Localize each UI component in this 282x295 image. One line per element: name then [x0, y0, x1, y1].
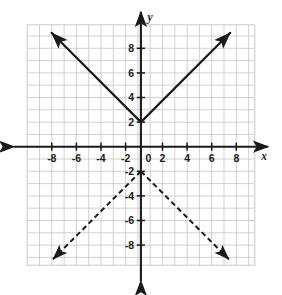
y-tick-label: 4	[128, 91, 134, 103]
coordinate-plane-figure: -8 -6 -4 -2 2 4 6 8 0 8 6 4 2 -2 -4 -6 -…	[0, 0, 282, 295]
x-tick-label: -8	[47, 152, 56, 164]
y-tick-label: 6	[128, 67, 134, 79]
x-tick-label: 2	[160, 152, 166, 164]
x-tick-label: -6	[72, 152, 81, 164]
x-tick-label: 6	[209, 152, 215, 164]
x-tick-label: -4	[96, 152, 105, 164]
y-tick-label: -6	[125, 214, 134, 226]
x-tick-label: 4	[184, 152, 190, 164]
x-axis-label: x	[260, 150, 267, 162]
y-axis-label: y	[145, 11, 153, 24]
x-tick-label: -2	[121, 152, 130, 164]
y-tick-label: -2	[125, 165, 134, 177]
y-tick-label: -8	[125, 239, 134, 251]
graph-canvas: -8 -6 -4 -2 2 4 6 8 0 8 6 4 2 -2 -4 -6 -…	[0, 0, 282, 295]
y-tick-label: -4	[125, 190, 134, 202]
y-tick-label: 2	[128, 116, 134, 128]
x-tick-label: 8	[233, 152, 239, 164]
origin-label: 0	[146, 152, 152, 164]
y-tick-label: 8	[128, 42, 134, 54]
